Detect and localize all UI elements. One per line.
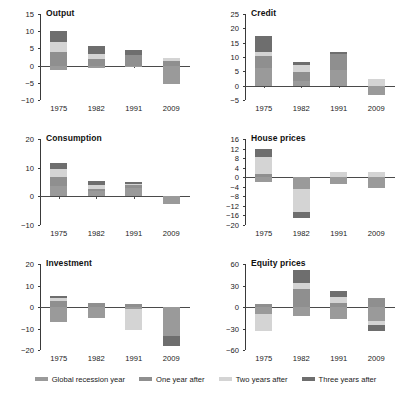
bar-segment <box>293 212 310 218</box>
bar-segment <box>293 81 310 86</box>
chart-panel-house-prices: House prices1612840−4−8−12−16−2019751982… <box>205 125 410 247</box>
bar-segment <box>255 174 272 178</box>
bar-segment <box>50 298 67 301</box>
bar-1975 <box>50 264 67 350</box>
y-tick-label: 0 <box>0 303 34 312</box>
bar-2009 <box>163 139 180 225</box>
legend-label: Three years after <box>319 375 377 384</box>
legend-item-global-recession-year: Global recession year <box>35 375 125 384</box>
bar-segment <box>255 56 272 67</box>
y-tick-mark <box>243 139 246 140</box>
x-tick-label: 2009 <box>153 229 191 238</box>
legend-swatch-icon <box>35 377 48 382</box>
legend-swatch-icon <box>302 377 315 382</box>
bar-1991 <box>125 14 142 100</box>
y-tick-mark <box>243 196 246 197</box>
x-tick-label: 1991 <box>320 104 358 113</box>
y-tick-label: 0 <box>205 81 239 90</box>
y-tick-mark <box>38 264 41 265</box>
x-tick-label: 1975 <box>40 229 78 238</box>
y-tick-mark <box>243 215 246 216</box>
bar-1982 <box>88 139 105 225</box>
bar-segment <box>125 182 142 184</box>
y-tick-label: 0 <box>0 192 34 201</box>
bar-1982 <box>293 264 310 350</box>
y-tick-mark <box>243 158 246 159</box>
bar-segment <box>293 283 310 289</box>
y-tick-mark <box>38 168 41 169</box>
legend-label: Global recession year <box>52 375 125 384</box>
y-tick-label: 10 <box>0 163 34 172</box>
bar-segment <box>255 314 272 330</box>
bar-2009 <box>368 139 385 225</box>
bar-segment <box>163 58 180 61</box>
bar-segment <box>88 59 105 66</box>
bar-segment <box>88 303 105 307</box>
bar-segment <box>88 185 105 188</box>
bar-segment <box>330 303 347 307</box>
y-tick-mark <box>38 100 41 101</box>
y-tick-mark <box>243 168 246 169</box>
y-axis-line <box>245 14 246 100</box>
bar-2009 <box>368 14 385 100</box>
y-tick-label: −10 <box>0 96 34 105</box>
y-tick-label: −20 <box>0 346 34 355</box>
bar-segment <box>50 163 67 169</box>
bar-segment <box>255 177 272 182</box>
bar-1991 <box>125 139 142 225</box>
y-tick-mark <box>38 31 41 32</box>
bar-segment <box>125 184 142 185</box>
y-tick-label: 15 <box>0 10 34 19</box>
y-tick-label: 0 <box>205 173 239 182</box>
chart-panel-consumption: Consumption20100−101975198219912009 <box>0 125 205 247</box>
bar-1991 <box>125 264 142 350</box>
y-tick-mark <box>38 14 41 15</box>
bar-segment <box>368 307 385 321</box>
bar-segment <box>255 36 272 51</box>
bar-segment <box>330 177 347 184</box>
bar-segment <box>330 70 347 85</box>
y-tick-label: 16 <box>205 135 239 144</box>
y-tick-mark <box>38 225 41 226</box>
y-tick-mark <box>38 286 41 287</box>
bar-segment <box>88 46 105 54</box>
y-tick-mark <box>243 206 246 207</box>
bar-1991 <box>330 139 347 225</box>
bar-segment <box>50 186 67 196</box>
bar-segment <box>163 66 180 84</box>
chart-panel-equity-prices: Equity prices60300−30−601975198219912009 <box>205 250 410 372</box>
y-tick-label: 30 <box>205 281 239 290</box>
x-tick-label: 1982 <box>283 354 321 363</box>
y-tick-mark <box>38 83 41 84</box>
y-tick-label: −30 <box>205 324 239 333</box>
x-tick-label: 1982 <box>78 229 116 238</box>
bar-1975 <box>255 14 272 100</box>
chart-panel-investment: Investment20100−10−201975198219912009 <box>0 250 205 372</box>
y-tick-mark <box>243 350 246 351</box>
y-tick-label: 20 <box>0 135 34 144</box>
y-tick-mark <box>243 286 246 287</box>
y-tick-label: 0 <box>0 61 34 70</box>
legend-item-three-years-after: Three years after <box>302 375 377 384</box>
x-tick-label: 2009 <box>153 354 191 363</box>
y-tick-label: 0 <box>205 303 239 312</box>
bar-segment <box>50 169 67 176</box>
y-tick-label: 10 <box>0 27 34 36</box>
bar-1982 <box>293 139 310 225</box>
x-tick-label: 1991 <box>320 354 358 363</box>
bar-segment <box>293 189 310 212</box>
bar-segment <box>330 52 347 53</box>
legend-item-two-years-after: Two years after <box>219 375 288 384</box>
bar-segment <box>255 307 272 314</box>
y-tick-label: −20 <box>205 221 239 230</box>
y-tick-label: 5 <box>0 44 34 53</box>
x-tick-label: 1975 <box>40 104 78 113</box>
y-tick-label: 5 <box>205 67 239 76</box>
bar-segment <box>88 54 105 59</box>
bar-segment <box>255 68 272 86</box>
bar-1975 <box>255 139 272 225</box>
bar-segment <box>50 301 67 307</box>
legend-swatch-icon <box>219 377 232 382</box>
x-tick-label: 1975 <box>40 354 78 363</box>
bar-segment <box>293 177 310 189</box>
